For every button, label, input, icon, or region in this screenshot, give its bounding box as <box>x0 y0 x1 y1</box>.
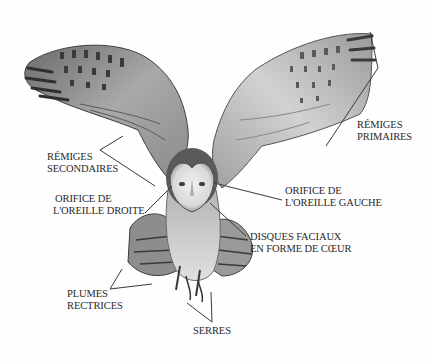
label-line: L'OREILLE DROITE <box>53 205 145 217</box>
label-serres: SERRES <box>193 325 231 337</box>
label-line: L'OREILLE GAUCHE <box>285 197 382 209</box>
label-line: DISQUES FACIAUX <box>250 231 351 243</box>
label-orifice-oreille-gauche: ORIFICE DE L'OREILLE GAUCHE <box>285 185 382 209</box>
label-line: ORIFICE DE <box>53 193 145 205</box>
label-line: EN FORME DE CŒUR <box>250 243 351 255</box>
label-disques-faciaux: DISQUES FACIAUX EN FORME DE CŒUR <box>250 231 351 255</box>
label-line: PRIMAIRES <box>357 131 412 143</box>
label-remiges-primaires: RÉMIGES PRIMAIRES <box>357 119 412 143</box>
label-line: RÉMIGES <box>357 119 412 131</box>
label-line: PLUMES <box>67 288 123 300</box>
label-line: SERRES <box>193 325 231 337</box>
right-wing <box>212 34 375 188</box>
leader-oreille-gauche <box>214 183 282 200</box>
owl-illustration <box>0 0 432 363</box>
label-line: RÉMIGES <box>47 151 118 163</box>
owl-diagram: RÉMIGES PRIMAIRES RÉMIGES SECONDAIRES OR… <box>0 0 432 363</box>
label-line: ORIFICE DE <box>285 185 382 197</box>
label-orifice-oreille-droite: ORIFICE DE L'OREILLE DROITE <box>53 193 145 217</box>
label-line: RECTRICES <box>67 300 123 312</box>
label-remiges-secondaires: RÉMIGES SECONDAIRES <box>47 151 118 175</box>
label-line: SECONDAIRES <box>47 163 118 175</box>
label-plumes-rectrices: PLUMES RECTRICES <box>67 288 123 312</box>
